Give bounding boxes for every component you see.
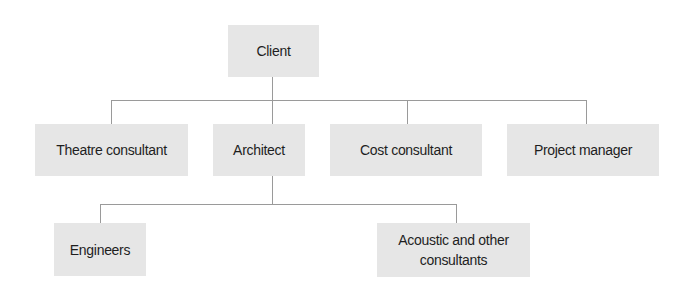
node-label: Theatre consultant	[56, 140, 167, 160]
connector-engineers	[100, 204, 101, 223]
connector-level1-bar	[111, 100, 587, 101]
connector-architect-down	[272, 176, 273, 204]
connector-architect	[272, 100, 273, 124]
node-acoustic-consultants: Acoustic and other consultants	[377, 223, 530, 277]
node-engineers: Engineers	[54, 223, 146, 276]
node-label-line-2: consultants	[420, 250, 488, 270]
connector-theatre	[111, 100, 112, 124]
connector-project	[586, 100, 587, 124]
connector-level2-bar	[100, 204, 457, 205]
node-label: Project manager	[534, 140, 632, 160]
node-label: Cost consultant	[360, 140, 452, 160]
node-theatre-consultant: Theatre consultant	[35, 124, 188, 176]
node-client: Client	[228, 25, 319, 77]
node-cost-consultant: Cost consultant	[330, 124, 482, 176]
node-label-line-1: Acoustic and other	[398, 230, 509, 250]
node-architect: Architect	[213, 124, 305, 176]
node-label: Client	[257, 41, 291, 61]
connector-acoustic	[456, 204, 457, 223]
connector-client-down	[272, 77, 273, 100]
node-label: Architect	[233, 140, 285, 160]
node-label: Engineers	[70, 240, 130, 260]
connector-cost	[407, 100, 408, 124]
node-project-manager: Project manager	[507, 124, 659, 176]
